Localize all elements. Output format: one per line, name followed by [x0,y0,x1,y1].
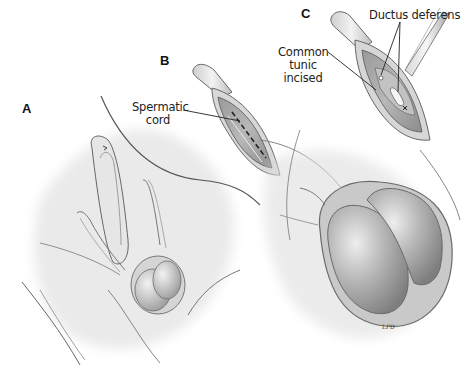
callout-common-tunic-line3: incised [278,72,328,85]
callout-spermatic-cord: Spermatic cord [132,101,184,127]
callout-ductus-deferens: Ductus deferens [369,9,460,22]
anatomical-figure: A B C Spermatic cord Ductus deferens Com… [0,0,471,381]
callout-spermatic-cord-line2: cord [132,114,184,127]
panel-label-b: B [160,53,169,68]
panel-a-artwork [22,96,260,365]
panel-label-a: A [22,101,31,116]
callout-common-tunic-incised: Common tunic incised [278,46,328,85]
illustration-artwork [0,0,471,381]
artist-signature: LPD [382,323,395,330]
panel-label-c: C [301,6,310,21]
